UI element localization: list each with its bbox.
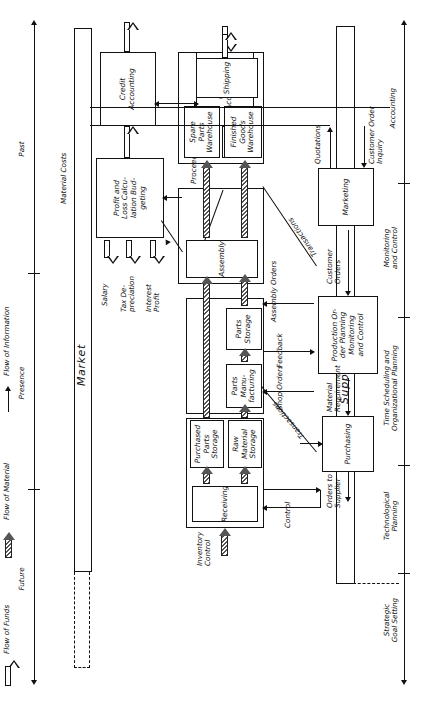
material-parts-storage-to-assembly <box>241 280 248 306</box>
box-finished-goods-warehouse-label: Finished Goods Warehouse <box>230 111 256 152</box>
phase-label-time-scheduling: Time Scheduling and Organizational Plann… <box>383 320 400 456</box>
box-parts-storage[interactable]: Parts Storage <box>226 308 262 350</box>
arrow-into-purchasing <box>318 441 323 447</box>
arrow-diag-profit-left <box>163 238 171 246</box>
arrow-customer-orders <box>345 291 351 296</box>
box-production-order-planning-label: Production Or- der Planning Monitoring a… <box>331 308 365 361</box>
label-assembly-orders: Assembly Orders <box>270 261 278 322</box>
box-finished-goods-warehouse[interactable]: Finished Goods Warehouse <box>224 106 262 158</box>
arrow-orders-to-supplier <box>345 497 351 502</box>
box-profit-loss-calculation[interactable]: Profit and Loss Calcu- lation Bud- getin… <box>96 158 164 238</box>
time-axis-arrow-start <box>31 680 37 685</box>
funds-shipping-out-head <box>225 32 237 40</box>
phase-label-monitoring-and-control: Monitoring and Control <box>383 190 400 306</box>
box-receiving[interactable]: Receiving <box>192 486 258 522</box>
funds-salary-head <box>107 256 119 264</box>
material-raw-to-parts-mfg <box>241 410 248 418</box>
arrow-feedback <box>310 349 315 355</box>
line-material-requirement <box>348 378 349 412</box>
line-market-vertical-a <box>90 125 330 126</box>
rotated-diagram-body: Strategic Goal Setting Technological Pla… <box>0 0 432 704</box>
phase-label-accounting: Accounting <box>389 48 397 168</box>
label-transactions-left: Transactions <box>271 400 307 440</box>
box-parts-storage-label: Parts Storage <box>235 315 252 344</box>
funds-tax-head <box>129 256 141 264</box>
time-axis-arrow-end <box>31 20 37 25</box>
flow-of-information-icon <box>8 390 9 412</box>
box-assembly[interactable]: Assembly <box>186 240 258 278</box>
legend-label-flow-of-material: Flow of Material <box>3 463 11 520</box>
label-tax-depreciation: Tax De- preciation <box>120 276 137 312</box>
label-salary: Salary <box>101 283 109 306</box>
arrow-customer-order-inquiry <box>361 163 367 168</box>
phase-label-technological-planning: Technological Planning <box>383 468 400 564</box>
line-purchased-to-credit <box>156 103 178 104</box>
box-credit-accounting[interactable]: Credit Accounting <box>100 52 156 126</box>
box-marketing[interactable]: Marketing <box>318 168 374 226</box>
box-parts-manufacturing[interactable]: Parts Manu- facturing <box>226 364 262 408</box>
box-purchasing[interactable]: Purchasing <box>322 416 374 472</box>
box-production-order-planning[interactable]: Production Or- der Planning Monitoring a… <box>318 296 378 374</box>
label-transactions-right: Transactions <box>287 216 319 258</box>
box-profit-loss-calculation-label: Profit and Loss Calcu- lation Bud- getin… <box>113 177 147 219</box>
box-shipping[interactable]: Shipping <box>196 58 258 98</box>
box-purchased-parts-storage[interactable]: Purchased Parts Storage <box>190 420 224 468</box>
flow-of-funds-shaft <box>5 666 11 686</box>
funds-interest-head <box>153 256 165 264</box>
material-inventory-control <box>221 534 228 556</box>
time-axis-line <box>34 22 35 682</box>
line-control-down <box>264 489 320 490</box>
time-tick-2 <box>28 273 40 274</box>
box-raw-material-storage-label: Raw Material Storage <box>232 429 258 459</box>
phase-label-strategic-goal-setting: Strategic Goal Setting <box>383 572 400 668</box>
box-spare-parts-warehouse-label: Spare Parts Warehouse <box>189 111 215 152</box>
label-interest-profit: Interest Profit <box>145 284 162 312</box>
label-material-costs: Material Costs <box>60 153 68 204</box>
line-customer-order-inquiry <box>364 126 365 164</box>
material-receiving-to-purchased <box>203 472 210 484</box>
box-marketing-label: Marketing <box>342 178 351 215</box>
box-shipping-label: Shipping <box>223 62 232 94</box>
flow-of-material-icon <box>5 538 12 558</box>
box-purchased-parts-storage-label: Purchased Parts Storage <box>194 425 220 464</box>
line-feedback <box>264 351 314 352</box>
box-credit-accounting-label: Credit Accounting <box>119 68 136 109</box>
sales-market-label: Market <box>76 344 89 386</box>
time-label-past: Past <box>18 94 26 204</box>
arrow-assembly-orders <box>262 301 267 307</box>
label-orders-to-supplier: Orders to Supplier <box>326 474 343 508</box>
label-material-requirement: Material Requirement <box>326 365 343 412</box>
phase-tick-4 <box>398 183 410 184</box>
box-spare-parts-warehouse[interactable]: Spare Parts Warehouse <box>184 106 220 158</box>
arrow-control-up <box>262 505 267 511</box>
funds-profit-to-credit-head <box>127 126 139 134</box>
material-assembly-to-finished <box>241 166 248 238</box>
material-assembly-to-spare <box>203 166 210 238</box>
box-raw-material-storage[interactable]: Raw Material Storage <box>228 420 262 468</box>
phase-tick-3 <box>398 317 410 318</box>
funds-credit-out-head <box>127 22 139 30</box>
sales-market-dashed-extension <box>74 572 90 668</box>
material-receiving-to-raw <box>241 472 248 484</box>
line-control-base <box>320 490 321 508</box>
line-quotations <box>330 128 331 168</box>
time-tick-1 <box>28 489 40 490</box>
phase-axis-arrow-end <box>401 20 407 25</box>
arrow-material-requirement <box>345 411 351 416</box>
material-parts-mfg-to-storage <box>241 354 248 362</box>
line-shop-orders <box>264 391 314 392</box>
phase-axis-arrow-start <box>401 680 407 685</box>
label-quotations: Quotations <box>314 125 322 164</box>
time-label-presence: Presence <box>18 328 26 438</box>
flow-of-information-arrowhead <box>5 386 11 391</box>
arrow-quotations <box>327 127 333 132</box>
legend-label-flow-of-funds: Flow of Funds <box>3 605 11 654</box>
material-purchased-to-assembly <box>203 282 210 418</box>
legend-label-flow-of-information: Flow of Information <box>3 306 11 376</box>
phase-axis-line <box>404 22 405 682</box>
label-feedback: Feedback <box>276 333 284 368</box>
line-market-vertical-b <box>90 107 390 108</box>
label-customer-orders: Customer Orders <box>326 249 343 284</box>
phase-tick-2 <box>398 465 410 466</box>
label-control: Control <box>284 502 292 528</box>
